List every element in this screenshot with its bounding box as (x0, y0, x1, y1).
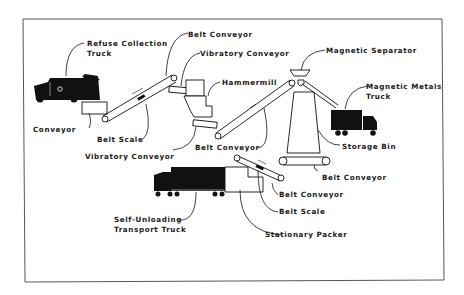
label-vibratory-conveyor-top: Vibratory Conveyor (200, 49, 289, 58)
label-belt-conveyor-bin: Belt Conveyor (322, 173, 387, 182)
self-unloading-transport-truck (154, 167, 225, 197)
label-magnetic-metals-truck: Magnetic Metals (366, 82, 442, 91)
label-storage-bin: Storage Bin (342, 142, 396, 151)
storage-bin (287, 92, 320, 153)
label-belt-scale-1: Belt Scale (97, 135, 143, 144)
label-magnetic-separator: Magnetic Separator (326, 46, 417, 55)
label-refuse-collection-truck: Refuse Collection (87, 39, 168, 48)
belt-conveyor-2 (215, 80, 295, 139)
vibratory-conveyor-bottom (193, 120, 217, 128)
label-transport-truck: Transport Truck (114, 225, 186, 234)
label-belt-conveyor-mid: Belt Conveyor (195, 143, 260, 152)
label-belt-conveyor-packer: Belt Conveyor (279, 190, 344, 199)
label-vibratory-conveyor-bottom: Vibratory Conveyor (85, 152, 174, 161)
label-hammermill: Hammermill (222, 78, 277, 87)
hammermill (184, 80, 212, 117)
conveyor-hopper (82, 102, 107, 114)
refuse-processing-diagram: Refuse Collection Truck Conveyor Belt Sc… (0, 0, 464, 295)
refuse-collection-truck (34, 74, 100, 103)
label-magnetic-metals-truck-2: Truck (366, 92, 391, 101)
magnetic-metals-truck (331, 110, 377, 136)
label-stationary-packer: Stationary Packer (265, 230, 347, 239)
label-belt-scale-2: Belt Scale (279, 207, 325, 216)
belt-conveyor-1 (102, 75, 177, 122)
label-belt-conveyor-top: Belt Conveyor (188, 30, 253, 39)
label-self-unloading: Self-Unloading (114, 215, 182, 224)
label-conveyor: Conveyor (33, 125, 76, 134)
belt-conveyor-bin (279, 157, 330, 165)
label-refuse-collection-truck-2: Truck (87, 49, 112, 58)
